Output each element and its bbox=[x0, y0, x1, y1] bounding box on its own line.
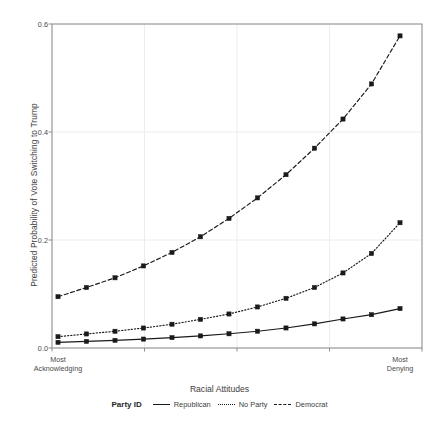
data-point-marker bbox=[341, 271, 345, 275]
data-point-marker bbox=[170, 336, 174, 340]
data-point-marker bbox=[113, 276, 117, 280]
data-point-marker bbox=[398, 306, 402, 310]
x-axis-right-label: Most Denying bbox=[361, 356, 439, 373]
legend-entry-label: No Party bbox=[239, 400, 268, 409]
legend-entry-republican[interactable]: Republican bbox=[153, 400, 211, 409]
data-point-marker bbox=[341, 117, 345, 121]
legend-entry-label: Republican bbox=[174, 400, 211, 409]
series-line-democrat bbox=[58, 36, 400, 297]
legend-entry-no-party[interactable]: No Party bbox=[218, 400, 268, 409]
legend-line-swatch-solid-icon bbox=[153, 401, 170, 408]
chart-figure: Predicted Probability of Vote Switching … bbox=[0, 0, 439, 426]
legend-line-swatch-dashed-icon bbox=[274, 401, 291, 408]
data-point-marker bbox=[113, 329, 117, 333]
data-point-marker bbox=[284, 296, 288, 300]
data-point-marker bbox=[56, 335, 60, 339]
data-point-marker bbox=[398, 221, 402, 225]
data-point-marker bbox=[113, 338, 117, 342]
data-point-marker bbox=[312, 322, 316, 326]
x-axis-left-label: Most Acknowledging bbox=[19, 356, 97, 373]
data-point-marker bbox=[141, 264, 145, 268]
data-point-marker bbox=[312, 146, 316, 150]
legend-entry-label: Democrat bbox=[295, 400, 327, 409]
data-point-marker bbox=[198, 334, 202, 338]
data-point-marker bbox=[369, 313, 373, 317]
data-point-marker bbox=[141, 326, 145, 330]
data-point-marker bbox=[369, 251, 373, 255]
data-point-marker bbox=[255, 305, 259, 309]
legend-title: Party ID bbox=[111, 400, 141, 409]
chart-legend: Party ID RepublicanNo PartyDemocrat bbox=[0, 400, 439, 409]
data-point-marker bbox=[198, 235, 202, 239]
data-point-marker bbox=[141, 337, 145, 341]
data-point-marker bbox=[170, 250, 174, 254]
data-point-marker bbox=[170, 322, 174, 326]
data-point-marker bbox=[312, 285, 316, 289]
data-point-marker bbox=[56, 295, 60, 299]
legend-entry-democrat[interactable]: Democrat bbox=[274, 400, 327, 409]
data-point-marker bbox=[398, 34, 402, 38]
data-point-marker bbox=[227, 216, 231, 220]
x-axis-title: Racial Attitudes bbox=[0, 384, 439, 394]
data-point-marker bbox=[341, 317, 345, 321]
legend-line-swatch-dotted-icon bbox=[218, 401, 235, 408]
data-point-marker bbox=[84, 339, 88, 343]
data-point-marker bbox=[56, 340, 60, 344]
data-point-marker bbox=[284, 326, 288, 330]
data-point-marker bbox=[227, 332, 231, 336]
data-point-marker bbox=[227, 312, 231, 316]
data-point-marker bbox=[84, 285, 88, 289]
data-point-marker bbox=[198, 317, 202, 321]
data-point-marker bbox=[255, 196, 259, 200]
x-axis-right-label-line2: Denying bbox=[361, 365, 439, 374]
data-point-marker bbox=[84, 332, 88, 336]
data-point-marker bbox=[255, 329, 259, 333]
data-point-marker bbox=[284, 173, 288, 177]
data-point-marker bbox=[369, 82, 373, 86]
x-axis-left-label-line2: Acknowledging bbox=[19, 365, 97, 374]
